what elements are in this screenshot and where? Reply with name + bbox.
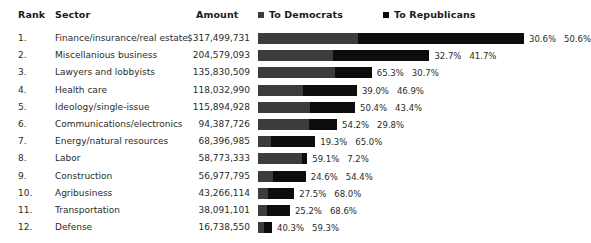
row-amount: 68,396,985 [130, 136, 250, 146]
table-row: 9.Construction56,977,79524.6%54.4% [0, 169, 591, 185]
stacked-bar [258, 33, 524, 44]
percent-label-democrats: 65.3% [377, 68, 404, 78]
table-row: 7.Energy/natural resources68,396,98519.3… [0, 134, 591, 150]
bar-percent-labels: 54.2%29.8% [342, 120, 404, 131]
percent-label-republicans: 50.6% [564, 34, 591, 44]
row-rank: 5. [18, 102, 27, 112]
square-marker-icon [383, 12, 389, 18]
percent-label-democrats: 54.2% [342, 120, 369, 130]
bar-segment-democrats [258, 188, 268, 199]
row-amount: 94,387,726 [130, 119, 250, 129]
table-row: 10.Agribusiness43,266,11427.5%68.0% [0, 186, 591, 202]
row-amount: 56,977,795 [130, 171, 250, 181]
percent-label-republicans: 29.8% [377, 120, 404, 130]
stacked-bar [258, 119, 337, 130]
percent-label-republicans: 68.0% [334, 189, 361, 199]
percent-label-republicans: 68.6% [330, 206, 357, 216]
row-rank: 10. [18, 188, 32, 198]
column-header-rank: Rank [18, 9, 45, 20]
row-amount: 135,830,509 [130, 67, 250, 77]
bar-segment-democrats [258, 136, 271, 147]
row-amount: 38,091,101 [130, 205, 250, 215]
legend-item-democrats: To Democrats [258, 9, 343, 20]
bar-segment-republicans [302, 153, 307, 164]
row-rank: 7. [18, 136, 27, 146]
campaign-contributions-chart: Rank Sector Amount To Democrats To Repub… [0, 0, 591, 243]
percent-label-republicans: 30.7% [412, 68, 439, 78]
bar-segment-democrats [258, 33, 358, 44]
percent-label-democrats: 27.5% [299, 189, 326, 199]
row-sector-name: Defense [55, 222, 92, 232]
legend-item-republicans: To Republicans [383, 9, 476, 20]
stacked-bar [258, 85, 357, 96]
bar-segment-republicans [358, 33, 524, 44]
row-rank: 1. [18, 33, 27, 43]
row-sector-name: Health care [55, 85, 107, 95]
bar-segment-democrats [258, 102, 310, 113]
stacked-bar [258, 50, 429, 61]
bar-segment-republicans [335, 67, 371, 78]
table-row: 4.Health care118,032,99039.0%46.9% [0, 83, 591, 99]
bar-segment-democrats [258, 171, 273, 182]
bar-percent-labels: 40.3%59.3% [277, 223, 339, 234]
table-row: 2.Miscellanious business204,579,09332.7%… [0, 48, 591, 64]
row-rank: 8. [18, 153, 27, 163]
row-amount: 118,032,990 [130, 85, 250, 95]
bar-percent-labels: 65.3%30.7% [377, 68, 439, 79]
row-rank: 2. [18, 50, 27, 60]
percent-label-republicans: 43.4% [395, 103, 422, 113]
column-header-sector: Sector [55, 9, 90, 20]
bar-segment-democrats [258, 153, 302, 164]
bar-segment-republicans [310, 102, 355, 113]
bar-percent-labels: 59.1%7.2% [312, 154, 369, 165]
bar-segment-democrats [258, 205, 267, 216]
legend-label-republicans: To Republicans [394, 9, 476, 20]
percent-label-republicans: 46.9% [397, 86, 424, 96]
percent-label-democrats: 59.1% [312, 154, 339, 164]
row-rank: 11. [18, 205, 32, 215]
table-row: 12.Defense16,738,55040.3%59.3% [0, 220, 591, 236]
bar-segment-republicans [303, 85, 357, 96]
square-marker-icon [258, 12, 264, 18]
bar-segment-democrats [258, 85, 303, 96]
row-amount: 204,579,093 [130, 50, 250, 60]
bar-percent-labels: 50.4%43.4% [360, 103, 422, 114]
percent-label-democrats: 32.7% [434, 51, 461, 61]
percent-label-democrats: 24.6% [311, 172, 338, 182]
table-row: 11.Transportation38,091,10125.2%68.6% [0, 203, 591, 219]
bar-percent-labels: 30.6%50.6% [529, 34, 591, 45]
stacked-bar [258, 136, 315, 147]
percent-label-republicans: 54.4% [346, 172, 373, 182]
row-sector-name: Construction [55, 171, 112, 181]
bar-segment-republicans [267, 205, 290, 216]
percent-label-republicans: 7.2% [347, 154, 369, 164]
percent-label-republicans: 65.0% [355, 137, 382, 147]
row-sector-name: Transportation [55, 205, 120, 215]
percent-label-republicans: 59.3% [312, 223, 339, 233]
bar-segment-republicans [333, 50, 429, 61]
bar-segment-republicans [264, 222, 272, 233]
table-row: 6.Communications/electronics94,387,72654… [0, 117, 591, 133]
row-amount: 115,894,928 [130, 102, 250, 112]
row-sector-name: Agribusiness [55, 188, 112, 198]
table-row: 3.Lawyers and lobbyists135,830,50965.3%3… [0, 65, 591, 81]
bar-segment-republicans [268, 188, 294, 199]
stacked-bar [258, 102, 355, 113]
stacked-bar [258, 171, 306, 182]
row-amount: 58,773,333 [130, 153, 250, 163]
percent-label-democrats: 19.3% [320, 137, 347, 147]
bar-percent-labels: 25.2%68.6% [295, 206, 357, 217]
table-row: 8.Labor58,773,33359.1%7.2% [0, 151, 591, 167]
stacked-bar [258, 188, 294, 199]
stacked-bar [258, 67, 372, 78]
percent-label-democrats: 39.0% [362, 86, 389, 96]
row-sector-name: Labor [55, 153, 80, 163]
bar-segment-republicans [309, 119, 337, 130]
row-rank: 4. [18, 85, 27, 95]
percent-label-republicans: 41.7% [469, 51, 496, 61]
bar-segment-democrats [258, 119, 309, 130]
bar-percent-labels: 39.0%46.9% [362, 86, 424, 97]
bar-percent-labels: 19.3%65.0% [320, 137, 382, 148]
row-amount: $317,499,731 [130, 33, 250, 43]
row-amount: 43,266,114 [130, 188, 250, 198]
